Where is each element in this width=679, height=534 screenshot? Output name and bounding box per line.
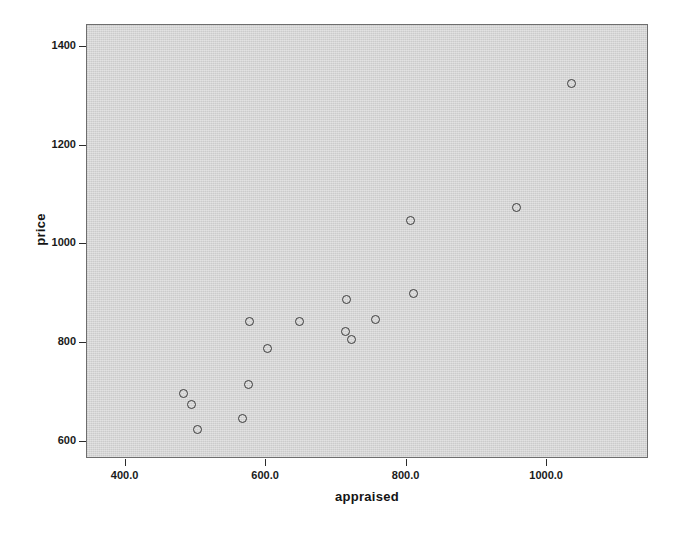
y-axis-title: price: [33, 180, 48, 280]
scatter-plot-figure: 600800100012001400 400.0600.0800.01000.0…: [0, 0, 679, 534]
x-axis-tick: [546, 459, 547, 466]
y-axis-tick-label: 1200: [0, 138, 76, 150]
data-point: [263, 344, 272, 353]
data-point: [409, 289, 418, 298]
x-axis-tick-label: 600.0: [225, 469, 305, 481]
x-axis-tick-label: 400.0: [85, 469, 165, 481]
x-axis-tick: [265, 459, 266, 466]
data-point: [244, 380, 253, 389]
y-axis-tick-label: 600: [0, 434, 76, 446]
y-axis-tick: [79, 145, 86, 146]
plot-area: [86, 24, 648, 458]
data-point: [512, 203, 521, 212]
data-point: [406, 216, 415, 225]
data-point: [342, 295, 351, 304]
data-point: [187, 400, 196, 409]
y-axis-tick: [79, 342, 86, 343]
x-axis-tick: [125, 459, 126, 466]
data-point: [238, 414, 247, 423]
x-axis-tick-label: 1000.0: [506, 469, 586, 481]
data-point: [245, 317, 254, 326]
plot-background-texture: [87, 25, 647, 457]
y-axis-tick: [79, 46, 86, 47]
data-point: [179, 389, 188, 398]
data-point: [347, 335, 356, 344]
data-point: [193, 425, 202, 434]
data-point: [371, 315, 380, 324]
data-point: [295, 317, 304, 326]
x-axis-tick-label: 800.0: [366, 469, 446, 481]
y-axis-tick: [79, 243, 86, 244]
y-axis-tick-label: 1400: [0, 39, 76, 51]
y-axis-tick: [79, 441, 86, 442]
data-point: [567, 79, 576, 88]
x-axis-title: appraised: [86, 489, 648, 504]
x-axis-tick: [406, 459, 407, 466]
y-axis-tick-label: 800: [0, 335, 76, 347]
